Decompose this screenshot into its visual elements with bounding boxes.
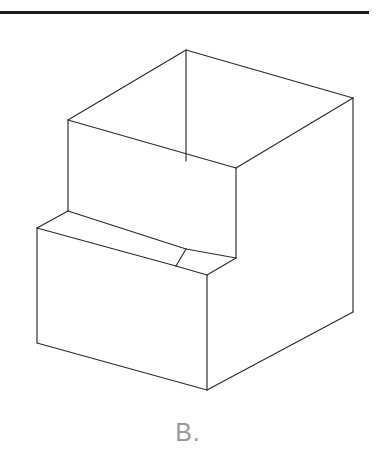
figure-page: B.	[0, 0, 376, 461]
figure-caption-label: B.	[0, 420, 376, 445]
figure-faces	[37, 50, 353, 390]
isometric-block-figure	[0, 0, 376, 461]
